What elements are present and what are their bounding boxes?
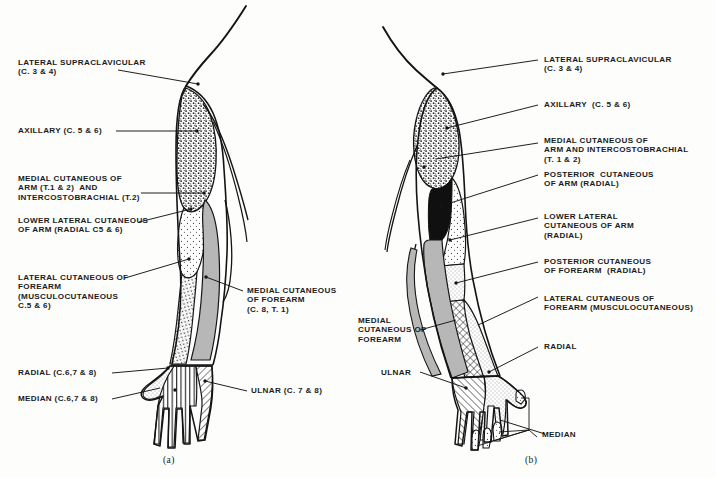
label-a-axillary: AXILLARY (C. 5 & 6) xyxy=(18,126,102,135)
region-ulnar-a xyxy=(196,366,212,440)
label-a-ulnar: ULNAR (C. 7 & 8) xyxy=(251,386,322,395)
figure-canvas: LATERAL SUPRACLAVICULAR(C. 3 & 4) AXILLA… xyxy=(0,0,716,478)
label-a-lower-lateral-cutaneous-of-arm: LOWER LATERAL CUTANEOUSOF ARM (RADIAL C5… xyxy=(18,216,148,235)
label-a-lateral-supraclavicular: LATERAL SUPRACLAVICULAR(C. 3 & 4) xyxy=(18,58,146,77)
caption-panel-a: (a) xyxy=(163,455,175,465)
label-b-lateral-cutaneous-of-forearm: LATERAL CUTANEOUS OFFOREARM (MUSCULOCUTA… xyxy=(544,294,693,313)
label-b-medial-cutaneous-of-arm: MEDIAL CUTANEOUS OFARM AND INTERCOSTOBRA… xyxy=(544,136,688,164)
region-axillary-b xyxy=(414,88,459,189)
torso-contour-b xyxy=(387,146,417,252)
region-medial-cutaneous-arm-a xyxy=(178,205,206,278)
label-a-median: MEDIAN (C.6,7 & 8) xyxy=(18,394,98,403)
label-b-lower-lateral-cutaneous-of-arm: LOWER LATERALCUTANEOUS OF ARM(RADIAL) xyxy=(544,212,634,240)
caption-panel-b: (b) xyxy=(525,455,537,465)
neck-contour-a xyxy=(186,6,246,86)
neck-contour-b xyxy=(383,27,437,88)
label-b-ulnar: ULNAR xyxy=(381,368,411,377)
label-b-medial-cutaneous-of-forearm: MEDIALCUTANEOUS OFFOREARM xyxy=(358,316,426,344)
label-b-median: MEDIAN xyxy=(542,430,576,439)
label-b-lateral-supraclavicular: LATERAL SUPRACLAVICULAR(C. 3 & 4) xyxy=(544,55,672,74)
label-a-radial: RADIAL (C.6,7 & 8) xyxy=(18,368,97,377)
label-b-posterior-cutaneous-of-arm: POSTERIOR CUTANEOUSOF ARM (RADIAL) xyxy=(544,170,654,189)
label-b-axillary: AXILLARY (C. 5 & 6) xyxy=(544,100,631,109)
label-b-radial: RADIAL xyxy=(544,342,577,351)
label-b-posterior-cutaneous-of-forearm: POSTERIOR CUTANEOUSOF FOREARM (RADIAL) xyxy=(544,257,651,276)
label-a-medial-cutaneous-of-forearm: MEDIAL CUTANEOUSOF FOREARM(C. 8, T. 1) xyxy=(247,286,336,314)
label-a-medial-cutaneous-of-arm: MEDIAL CUTANEOUS OFARM (T.1 & 2) ANDINTE… xyxy=(18,174,140,202)
panel-b-illustration xyxy=(383,27,545,450)
label-a-lateral-cutaneous-of-forearm: LATERAL CUTANEOUS OFFOREARM(MUSCULOCUTAN… xyxy=(18,273,128,311)
